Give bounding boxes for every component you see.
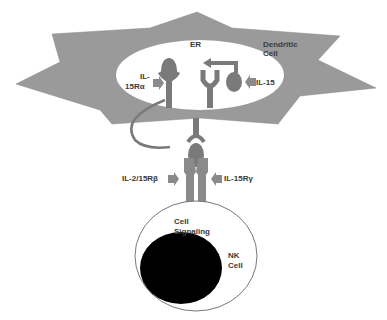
dendritic-cell-label-1: Dendritic	[263, 40, 298, 49]
er-label: ER	[190, 40, 201, 49]
il15ra-label-2: 15Rα	[125, 82, 145, 91]
il15rg-label: IL-15Rγ	[224, 174, 253, 183]
arrow-right-icon	[168, 172, 179, 186]
cell-signaling-label-1: Cell	[174, 217, 189, 226]
dendritic-cell-label-2: Cell	[263, 49, 278, 58]
nk-cell-label-1: NK	[228, 251, 240, 260]
il2-15rb-label: IL-2/15Rβ	[122, 174, 158, 183]
nk-cell-nucleus	[140, 232, 222, 304]
il15-molecule	[226, 72, 242, 92]
il15ra-label-1: IL-	[140, 72, 150, 81]
il15-label: IL-15	[256, 78, 275, 87]
arrow-left-icon	[211, 172, 222, 186]
nk-cell-label-2: Cell	[228, 261, 243, 270]
cell-signaling-label-2: Signaling	[174, 227, 210, 236]
